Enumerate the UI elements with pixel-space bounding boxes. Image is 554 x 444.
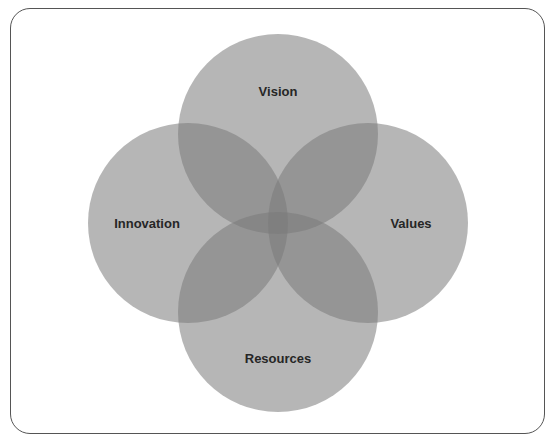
resources-label: Resources (245, 351, 311, 366)
vision-label: Vision (259, 84, 298, 99)
resources-circle (178, 212, 378, 412)
venn-diagram: Vision Innovation Values Resources (0, 0, 554, 444)
values-label: Values (390, 216, 431, 231)
circle-resources (178, 212, 378, 412)
innovation-label: Innovation (114, 216, 180, 231)
